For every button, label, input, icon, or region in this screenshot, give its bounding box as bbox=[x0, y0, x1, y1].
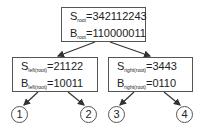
b-subscript: root bbox=[77, 34, 86, 40]
b-value: =110000011 bbox=[86, 27, 146, 39]
s-subscript: right(root) bbox=[124, 67, 146, 73]
s-value: =21122 bbox=[47, 60, 83, 72]
right-b-line: Bright(root)=0110 bbox=[117, 77, 192, 94]
b-value: =0110 bbox=[146, 77, 176, 89]
right-node: Sright(root)=3443 Bright(root)=0110 bbox=[108, 57, 193, 92]
right-s-line: Sright(root)=3443 bbox=[117, 60, 192, 77]
leaf-node-2: 2 bbox=[80, 106, 97, 123]
left-node: Sleft(root)=21122 Bleft(root)=10011 bbox=[12, 57, 98, 92]
s-subscript: root bbox=[77, 17, 86, 23]
b-subscript: left(root) bbox=[28, 84, 47, 90]
left-b-line: Bleft(root)=10011 bbox=[21, 77, 97, 94]
root-node: Sroot=342112243 Broot=110000011 bbox=[61, 7, 146, 42]
root-b-line: Broot=110000011 bbox=[70, 27, 145, 44]
s-subscript: left(root) bbox=[28, 67, 47, 73]
left-s-line: Sleft(root)=21122 bbox=[21, 60, 97, 77]
edge-root-right bbox=[110, 42, 150, 56]
s-value: =342112243 bbox=[86, 10, 147, 22]
root-s-line: Sroot=342112243 bbox=[70, 10, 145, 27]
leaf-node-3: 3 bbox=[108, 106, 125, 123]
leaf-node-1: 1 bbox=[11, 106, 28, 123]
s-value: =3443 bbox=[146, 60, 177, 72]
leaf-node-4: 4 bbox=[176, 106, 193, 123]
b-subscript: right(root) bbox=[124, 84, 146, 90]
edge-root-left bbox=[58, 42, 95, 56]
b-value: =10011 bbox=[47, 77, 83, 89]
